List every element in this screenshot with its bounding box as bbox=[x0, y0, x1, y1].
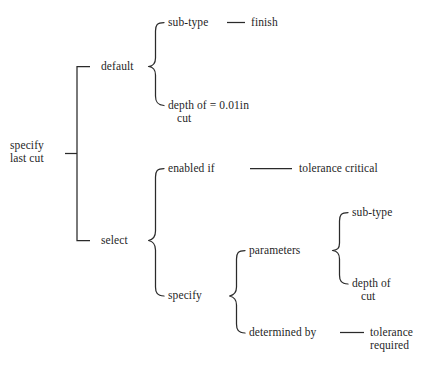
node-tolerance-critical: tolerance critical bbox=[299, 162, 378, 175]
node-determined-by: determined by bbox=[249, 326, 316, 339]
node-specify-last-cut: specify last cut bbox=[10, 139, 44, 164]
diagram-connector-layer bbox=[0, 0, 439, 371]
node-depth-of-cut-default: depth of = 0.01in cut bbox=[168, 99, 249, 124]
node-sub-type-parameter: sub-type bbox=[352, 206, 392, 219]
node-enabled-if: enabled if bbox=[168, 162, 215, 175]
node-select: select bbox=[101, 234, 128, 247]
select-brace bbox=[149, 169, 165, 297]
specify-brace bbox=[230, 251, 246, 334]
node-finish: finish bbox=[251, 16, 278, 29]
node-tolerance-required: tolerance required bbox=[370, 326, 413, 351]
brace-tree-diagram: specify last cut default sub-type finish… bbox=[0, 0, 439, 371]
node-depth-of-cut-parameter: depth of cut bbox=[352, 277, 391, 302]
node-default: default bbox=[101, 60, 134, 73]
parameters-brace bbox=[333, 213, 349, 285]
default-brace bbox=[149, 23, 165, 106]
node-specify: specify bbox=[168, 289, 202, 302]
node-sub-type-default: sub-type bbox=[168, 16, 208, 29]
node-parameters: parameters bbox=[249, 244, 300, 257]
root-bracket bbox=[65, 67, 90, 241]
